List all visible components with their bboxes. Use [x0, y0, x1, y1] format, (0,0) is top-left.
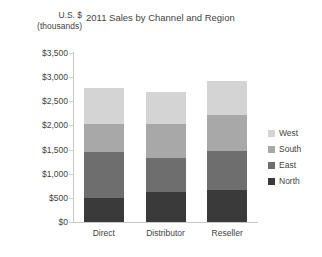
bar-segment-north[interactable] — [146, 192, 186, 222]
bar-segment-east[interactable] — [207, 151, 247, 190]
x-axis-tick-label: Reseller — [177, 228, 277, 238]
legend-item-label: East — [279, 160, 296, 170]
legend-swatch-icon — [268, 130, 275, 137]
legend-item-label: West — [279, 128, 298, 138]
bar-segment-west[interactable] — [146, 92, 186, 124]
bar-segment-south[interactable] — [146, 124, 186, 158]
y-axis-tick-label: $3,000 — [22, 72, 68, 82]
bar-segment-north[interactable] — [207, 190, 247, 222]
legend-swatch-icon — [268, 162, 275, 169]
bar-segment-west[interactable] — [84, 88, 124, 124]
y-axis-tick-label: $1,500 — [22, 145, 68, 155]
bar-segment-south[interactable] — [84, 124, 124, 152]
bar-segment-east[interactable] — [84, 152, 124, 198]
legend-item-label: North — [279, 176, 300, 186]
bar-segment-south[interactable] — [207, 115, 247, 151]
legend-item-label: South — [279, 144, 301, 154]
y-axis-tick-mark — [69, 222, 73, 223]
x-axis-line — [73, 222, 258, 223]
y-axis-tick-label: $2,500 — [22, 96, 68, 106]
legend-item[interactable]: South — [268, 141, 301, 157]
y-axis-tick-label: $1,000 — [22, 169, 68, 179]
y-axis-tick-label: $500 — [22, 193, 68, 203]
bar-column[interactable] — [84, 88, 124, 222]
y-axis-tick-label: $0 — [22, 217, 68, 227]
bar-segment-north[interactable] — [84, 198, 124, 222]
chart-title: 2011 Sales by Channel and Region — [86, 12, 235, 23]
y-axis-title-line2: (thousands) — [2, 21, 82, 32]
legend-swatch-icon — [268, 178, 275, 185]
legend: WestSouthEastNorth — [268, 125, 301, 189]
plot-area — [73, 53, 258, 222]
bar-column[interactable] — [207, 81, 247, 222]
y-axis-tick-label: $3,500 — [22, 48, 68, 58]
y-axis-title-line1: U.S. $ — [2, 10, 82, 21]
legend-swatch-icon — [268, 146, 275, 153]
legend-item[interactable]: North — [268, 173, 301, 189]
bar-segment-east[interactable] — [146, 158, 186, 192]
y-axis-title: U.S. $ (thousands) — [2, 10, 82, 32]
legend-item[interactable]: East — [268, 157, 301, 173]
bar-column[interactable] — [146, 92, 186, 222]
legend-item[interactable]: West — [268, 125, 301, 141]
chart-container: U.S. $ (thousands) 2011 Sales by Channel… — [0, 0, 322, 257]
bar-segment-west[interactable] — [207, 81, 247, 115]
y-axis-tick-label: $2,000 — [22, 120, 68, 130]
